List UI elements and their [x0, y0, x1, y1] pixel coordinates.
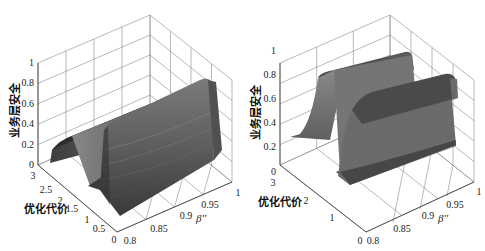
right-x-label: β'' [437, 212, 449, 224]
svg-text:0.8: 0.8 [22, 77, 35, 88]
svg-text:1: 1 [236, 187, 241, 198]
svg-text:0.85: 0.85 [393, 223, 411, 234]
svg-text:2: 2 [304, 195, 309, 206]
svg-text:0: 0 [29, 159, 34, 170]
svg-text:0.4: 0.4 [22, 118, 35, 129]
svg-text:0.4: 0.4 [264, 117, 277, 128]
svg-text:0.95: 0.95 [446, 199, 464, 210]
svg-text:0.6: 0.6 [22, 98, 35, 109]
svg-text:0: 0 [271, 166, 276, 177]
svg-text:0.85: 0.85 [150, 223, 168, 234]
svg-text:0: 0 [112, 234, 117, 245]
svg-text:0.8: 0.8 [124, 235, 137, 246]
left-z-label: 业务层安全 [8, 82, 22, 138]
right-surface [290, 52, 458, 185]
svg-text:1: 1 [330, 212, 335, 223]
svg-text:0.2: 0.2 [22, 139, 35, 150]
figure: 0 0.2 0.4 0.6 0.8 1 业务层安全 3 2.5 2 1.5 1 … [0, 0, 485, 251]
svg-text:0.2: 0.2 [264, 141, 277, 152]
left-surface [50, 79, 222, 217]
svg-text:0.8: 0.8 [264, 69, 277, 80]
svg-text:1: 1 [85, 214, 90, 225]
right-y-label: 优化代价 [258, 195, 303, 209]
right-surface-plot: 0 0.2 0.4 0.6 0.8 1 业务层安全 3 2 1 0 优化代价 0… [249, 15, 482, 246]
svg-text:0.9: 0.9 [180, 210, 193, 221]
svg-text:1: 1 [29, 57, 34, 68]
svg-text:0.5: 0.5 [93, 223, 106, 234]
left-surface-plot: 0 0.2 0.4 0.6 0.8 1 业务层安全 3 2.5 2 1.5 1 … [8, 15, 241, 246]
right-y-ticks: 3 2 1 0 [271, 177, 363, 246]
right-z-label: 业务层安全 [249, 84, 263, 140]
svg-text:1: 1 [477, 186, 482, 197]
svg-text:0.6: 0.6 [264, 93, 277, 104]
svg-text:3: 3 [31, 170, 36, 181]
svg-text:0: 0 [358, 235, 363, 246]
left-x-label: β'' [195, 212, 207, 224]
svg-text:3: 3 [271, 177, 276, 188]
svg-text:2.5: 2.5 [40, 184, 53, 195]
svg-text:1: 1 [271, 45, 276, 56]
svg-text:0.95: 0.95 [201, 199, 219, 210]
svg-text:0.9: 0.9 [422, 210, 435, 221]
right-z-ticks: 0 0.2 0.4 0.6 0.8 1 [264, 45, 277, 177]
right-x-ticks: 0.8 0.85 0.9 0.95 1 [367, 186, 482, 246]
left-z-ticks: 0 0.2 0.4 0.6 0.8 1 [22, 57, 35, 170]
left-y-label: 优化代价 [24, 202, 69, 216]
svg-text:0.8: 0.8 [367, 235, 380, 246]
